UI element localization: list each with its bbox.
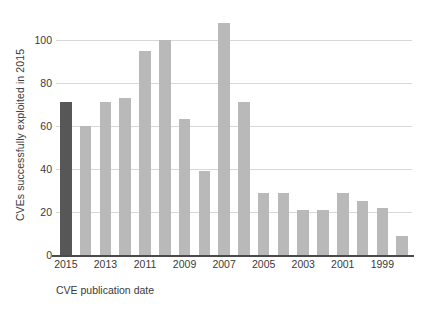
bar-2005 xyxy=(258,193,269,255)
bar-1998 xyxy=(396,236,407,255)
y-tick-label: 40 xyxy=(40,163,52,175)
y-tick-label: 20 xyxy=(40,206,52,218)
x-tick-label: 2011 xyxy=(134,258,157,270)
x-tick-label: 2009 xyxy=(173,258,196,270)
bar-chart: CVEs successfully exploited in 2015 0204… xyxy=(0,0,425,314)
bar-2012 xyxy=(119,98,130,255)
bar-2007 xyxy=(218,23,229,255)
y-axis-tick-labels: 020406080100 xyxy=(26,0,52,314)
x-tick-label: 1999 xyxy=(371,258,394,270)
bar-2006 xyxy=(238,102,249,255)
y-tick-label: 100 xyxy=(34,34,52,46)
x-axis-title: CVE publication date xyxy=(56,284,154,296)
bar-2008 xyxy=(199,171,210,255)
bar-2003 xyxy=(297,210,308,255)
x-axis-tick-labels: 201520132011200920072005200320011999 xyxy=(56,258,412,276)
y-tick-label: 80 xyxy=(40,77,52,89)
plot-area xyxy=(56,14,412,255)
y-axis-title-text: CVEs successfully exploited in 2015 xyxy=(14,49,26,221)
bar-2014 xyxy=(80,126,91,255)
bars-layer xyxy=(56,14,412,255)
bar-1999 xyxy=(377,208,388,255)
x-tick-label: 2003 xyxy=(292,258,315,270)
x-tick-label: 2001 xyxy=(331,258,354,270)
x-axis-line xyxy=(52,255,414,257)
x-tick-label: 2005 xyxy=(252,258,275,270)
bar-2010 xyxy=(159,40,170,255)
x-tick-label: 2015 xyxy=(54,258,77,270)
x-tick-label: 2007 xyxy=(212,258,235,270)
bar-2015 xyxy=(60,102,71,255)
bar-2011 xyxy=(139,51,150,255)
bar-2004 xyxy=(278,193,289,255)
bar-2013 xyxy=(100,102,111,255)
bar-2001 xyxy=(337,193,348,255)
bar-2002 xyxy=(317,210,328,255)
bar-2000 xyxy=(357,201,368,255)
x-tick-label: 2013 xyxy=(94,258,117,270)
y-tick-label: 60 xyxy=(40,120,52,132)
bar-2009 xyxy=(179,119,190,255)
